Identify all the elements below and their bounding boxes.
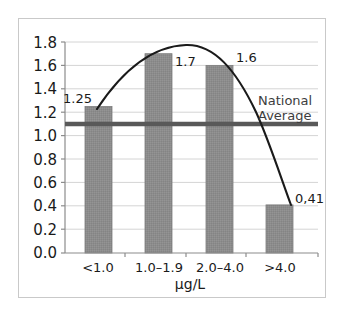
- bar-chart: 1.8 1.6 1.4 1.2 1.0 0.8 0.6 0.4 0.2 0.0: [0, 0, 346, 318]
- bar-value-label: 1.25: [63, 91, 92, 106]
- x-tick-label: <1.0: [82, 260, 114, 275]
- bar[interactable]: [85, 107, 112, 254]
- y-axis-tick-labels: 1.8 1.6 1.4 1.2 1.0 0.8 0.6 0.4 0.2 0.0: [33, 34, 57, 263]
- bar[interactable]: [206, 66, 233, 254]
- bar[interactable]: [145, 54, 172, 253]
- y-tick-label: 1.4: [33, 80, 57, 98]
- reference-line-label: National Average: [258, 93, 312, 123]
- bar[interactable]: [266, 205, 293, 253]
- reference-line-label-line2: Average: [258, 108, 311, 123]
- y-tick-label: 0.0: [33, 244, 57, 262]
- x-tick-label: 1.0–1.9: [135, 260, 183, 275]
- y-axis: [61, 42, 65, 253]
- bar-value-label: 0,41: [295, 191, 324, 206]
- y-tick-label: 1.8: [33, 34, 57, 52]
- y-tick-label: 0.8: [33, 151, 57, 169]
- y-tick-label: 1.2: [33, 104, 57, 122]
- bar-value-label: 1.7: [175, 54, 196, 69]
- y-tick-label: 0.2: [33, 221, 57, 239]
- y-tick-label: 0.4: [33, 197, 57, 215]
- x-axis-title: µg/L: [175, 276, 206, 292]
- chart-figure: 1.8 1.6 1.4 1.2 1.0 0.8 0.6 0.4 0.2 0.0: [0, 0, 346, 318]
- y-tick-label: 0.6: [33, 174, 57, 192]
- x-axis-category-labels: <1.0 1.0–1.9 2.0–4.0 >4.0: [82, 260, 296, 275]
- bar-value-label: 1.6: [236, 50, 257, 65]
- x-tick-label: >4.0: [264, 260, 296, 275]
- x-axis: [65, 253, 318, 257]
- y-tick-label: 1.0: [33, 127, 57, 145]
- x-tick-label: 2.0–4.0: [196, 260, 244, 275]
- reference-line-label-line1: National: [258, 93, 312, 108]
- y-tick-label: 1.6: [33, 57, 57, 75]
